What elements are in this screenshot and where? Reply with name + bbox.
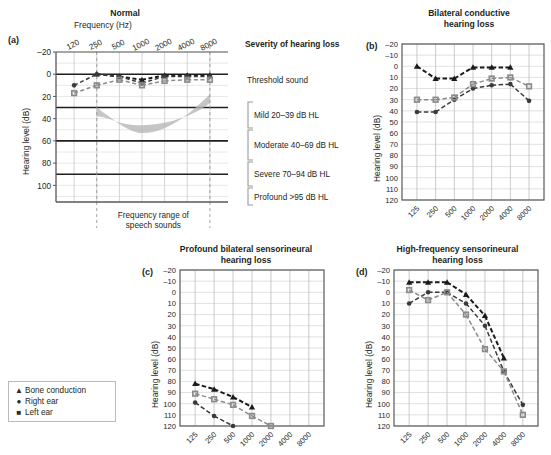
series-line-square — [504, 371, 523, 414]
legend-label-bone-conduction: Bone conduction — [25, 386, 86, 395]
y-tick-label: 80 — [42, 159, 52, 168]
speech-range-annotation: Frequency range of — [118, 211, 190, 220]
severity-brackets — [240, 0, 370, 235]
x-tick-label: 120 — [65, 37, 81, 51]
severity-bracket — [248, 102, 253, 128]
data-point-circle — [415, 110, 420, 115]
data-point-circle — [464, 301, 469, 306]
data-point-circle — [489, 83, 494, 88]
panel-a-normal: Normal Frequency (Hz) (a) Hearing level … — [0, 0, 250, 235]
y-tick-label: 90 — [168, 388, 176, 397]
y-tick-label: –10 — [377, 277, 390, 286]
severity-legend: Severity of hearing loss Threshold sound… — [240, 0, 370, 235]
series-line-circle — [214, 416, 233, 426]
y-tick-label: 20 — [168, 310, 176, 319]
y-tick-label: 50 — [382, 344, 390, 353]
series-line-triangle — [214, 389, 233, 397]
y-tick-label: 110 — [386, 185, 398, 194]
panel-b-bilateral-conductive: Bilateral conductive hearing loss (b) He… — [358, 0, 551, 235]
y-tick-label: 20 — [390, 84, 398, 93]
x-tick-label: 250 — [203, 430, 218, 445]
y-tick-label: 30 — [168, 322, 176, 331]
y-tick-label: 80 — [390, 151, 398, 160]
data-point-circle — [193, 400, 198, 405]
data-point-circle — [527, 99, 532, 104]
y-tick-label: 80 — [382, 377, 390, 386]
series-line-circle — [74, 74, 97, 85]
panel-d-plot: –20–100102030405060708090100110120125250… — [352, 240, 551, 455]
severity-bracket — [248, 188, 253, 205]
y-tick-label: 20 — [382, 310, 390, 319]
x-tick-label: 4000 — [496, 204, 514, 222]
y-tick-label: 70 — [168, 366, 176, 375]
data-point-circle — [483, 323, 488, 328]
x-tick-label: 4000 — [176, 36, 196, 52]
panel-c-profound-bilateral-sensorineural: Profound bilateral sensorineural hearing… — [140, 240, 340, 455]
y-tick-label: –10 — [163, 277, 176, 286]
x-tick-label: 4000 — [490, 430, 508, 448]
y-tick-label: 0 — [394, 62, 398, 71]
y-tick-label: 80 — [168, 377, 176, 386]
legend-label-right-ear: Right ear — [25, 397, 58, 406]
x-tick-label: 2000 — [471, 430, 489, 448]
speech-banana-region — [97, 94, 210, 133]
y-tick-label: –20 — [163, 266, 176, 275]
severity-bracket — [248, 162, 253, 186]
x-tick-label: 250 — [88, 37, 104, 51]
x-tick-label: 125 — [398, 430, 413, 445]
y-tick-label: 50 — [168, 344, 176, 353]
x-tick-label: 2000 — [257, 430, 275, 448]
y-tick-label: 100 — [163, 400, 176, 409]
legend-label-left-ear: Left ear — [25, 408, 53, 417]
y-tick-label: –20 — [385, 40, 398, 49]
x-tick-label: 500 — [110, 37, 126, 51]
y-tick-label: 70 — [390, 140, 398, 149]
y-tick-label: 40 — [168, 333, 176, 342]
panel-a-plot: –200204060801001202505001000200040008000… — [0, 0, 250, 235]
series-line-triangle — [417, 66, 436, 78]
y-tick-label: 30 — [390, 96, 398, 105]
data-point-circle — [433, 110, 438, 115]
data-point-circle — [94, 72, 99, 77]
x-tick-label: 125 — [184, 430, 199, 445]
legend-item-left-ear: ■ Left ear — [13, 407, 109, 418]
y-tick-label: 60 — [168, 355, 176, 364]
y-tick-label: 60 — [382, 355, 390, 364]
series-line-triangle — [195, 384, 214, 390]
y-tick-label: 40 — [382, 333, 390, 342]
y-tick-label: 60 — [390, 129, 398, 138]
series-line-triangle — [454, 67, 473, 78]
y-tick-label: 120 — [163, 422, 176, 431]
y-tick-label: 90 — [390, 162, 398, 171]
series-line-square — [97, 80, 120, 86]
series-line-circle — [504, 371, 523, 404]
y-tick-label: 10 — [382, 299, 390, 308]
y-tick-label: 30 — [382, 322, 390, 331]
series-line-circle — [119, 76, 142, 83]
series-line-circle — [492, 84, 511, 85]
data-point-circle — [426, 290, 431, 295]
data-point-circle — [521, 403, 526, 408]
data-point-circle — [231, 424, 236, 429]
y-tick-label: 0 — [172, 288, 176, 297]
data-point-circle — [72, 83, 77, 88]
x-tick-label: 500 — [222, 430, 237, 445]
data-point-circle — [407, 301, 412, 306]
data-point-triangle — [482, 313, 488, 319]
figure-legend: ▲ Bone conduction ● Right ear ■ Left ear — [8, 381, 116, 422]
x-tick-label: 4000 — [276, 430, 294, 448]
y-tick-label: 100 — [377, 400, 390, 409]
y-tick-label: 10 — [390, 73, 398, 82]
series-line-circle — [195, 403, 214, 416]
data-point-triangle — [230, 394, 236, 400]
x-tick-label: 500 — [443, 204, 458, 219]
y-tick-label: 40 — [42, 115, 52, 124]
data-point-circle — [212, 414, 217, 419]
data-point-circle — [508, 82, 513, 87]
circle-marker-icon: ● — [13, 397, 25, 406]
y-tick-label: 110 — [164, 411, 176, 420]
x-tick-label: 2000 — [154, 36, 174, 52]
x-tick-label: 1000 — [131, 36, 151, 52]
x-tick-label: 8000 — [199, 36, 219, 52]
data-point-triangle — [249, 404, 255, 410]
